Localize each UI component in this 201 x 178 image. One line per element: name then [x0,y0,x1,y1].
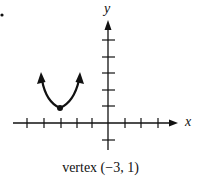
x-axis-arrow-icon [169,120,178,127]
vertex-point [57,105,63,111]
right-arrow-icon [76,72,85,84]
vertex-caption: vertex (−3, 1) [0,160,201,176]
graph [0,0,201,178]
parabola-curve [42,80,79,108]
y-axis-label: y [104,1,110,17]
left-arrow-icon [37,72,46,84]
bullet-dot [0,13,3,16]
x-axis-label: x [185,114,191,130]
y-axis-arrow-icon [105,20,112,30]
